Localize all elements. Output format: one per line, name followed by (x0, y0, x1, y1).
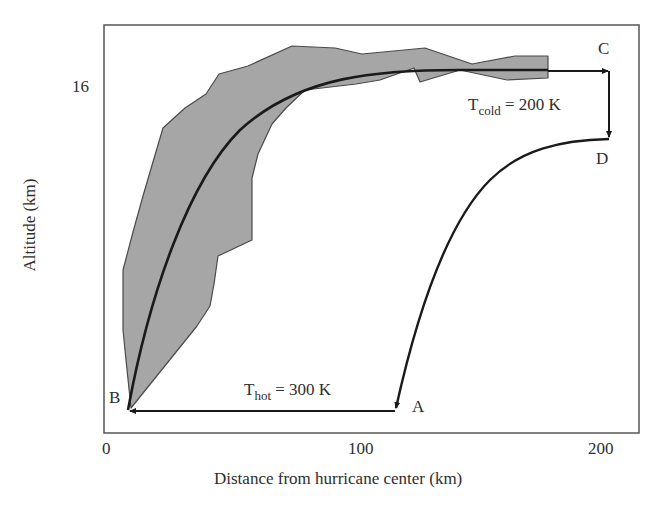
point-label-a: A (412, 398, 424, 415)
t-hot-symbol: T (244, 380, 254, 399)
point-label-b: B (109, 389, 120, 406)
t-hot-value: = 300 K (271, 380, 331, 399)
x-tick-0: 0 (102, 440, 111, 457)
x-axis-title: Distance from hurricane center (km) (214, 470, 462, 487)
path-d-to-a (396, 139, 609, 408)
point-label-c: C (598, 40, 609, 57)
t-cold-subscript: cold (478, 103, 500, 118)
carnot-cycle-figure: 16 0 100 200 Distance from hurricane cen… (0, 0, 667, 513)
t-cold-symbol: T (468, 95, 478, 114)
t-hot-annotation: Thot = 300 K (244, 381, 331, 398)
x-tick-200: 200 (588, 440, 614, 457)
t-hot-subscript: hot (254, 388, 271, 403)
y-tick-16: 16 (72, 78, 89, 95)
t-cold-annotation: Tcold = 200 K (468, 96, 561, 113)
x-tick-100: 100 (348, 440, 374, 457)
plot-canvas (0, 0, 667, 513)
t-cold-value: = 200 K (501, 95, 561, 114)
point-label-d: D (596, 150, 608, 167)
y-axis-title: Altitude (km) (20, 178, 40, 271)
